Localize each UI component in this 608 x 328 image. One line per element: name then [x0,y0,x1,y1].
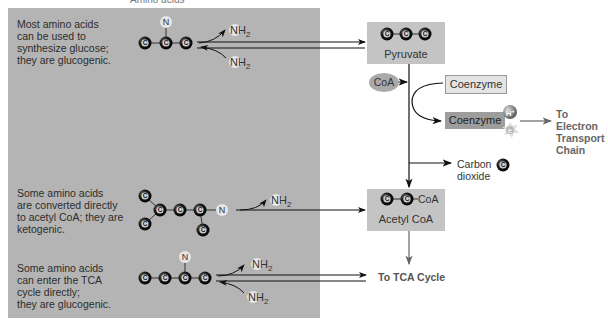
nh2-out-label: NH2 [271,194,292,209]
carbon-atom-icon [179,272,192,285]
nh2-in-label: NH2 [248,291,269,306]
carbon-atom-icon [194,204,207,217]
carbon-atom-icon [160,37,173,50]
nitrogen-atom-icon [179,251,191,263]
carbon-atom-icon [197,224,210,237]
carbon-atom-icon [497,159,510,172]
nh2-out-label: NH2 [230,24,251,39]
hydrogen-ion-icon: H+ [503,105,517,119]
nh2-in-label: NH2 [230,56,251,71]
pathway-graphics: C N NH2 NH2 H+ e [0,0,608,328]
acetyl-coa-tag: CoA [418,193,438,205]
electron-icon: e [502,122,519,138]
carbon-atom-icon [159,272,172,285]
carbon-atom-icon [401,193,414,206]
carbon-atom-icon [139,218,152,231]
row3-molecule [139,251,212,285]
carbon-atom-icon [174,204,187,217]
nitrogen-atom-icon [160,16,172,28]
carbon-atom-icon [139,272,152,285]
row1-molecule [139,16,193,50]
row2-molecule [139,190,229,237]
carbon-atom-icon [381,193,394,206]
nitrogen-atom-icon [216,204,228,216]
nh2-out-label: NH2 [252,258,273,273]
carbon-atom-icon [381,28,394,41]
carbon-atom-icon [180,37,193,50]
carbon-atom-icon [154,204,167,217]
svg-text:e: e [508,127,512,134]
carbon-atom-icon [139,37,152,50]
carbon-atom-icon [419,28,432,41]
carbon-atom-icon [400,28,413,41]
carbon-atom-icon [199,272,212,285]
carbon-atom-icon [139,190,152,203]
